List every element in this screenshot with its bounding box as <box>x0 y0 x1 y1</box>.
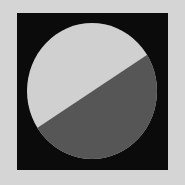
figure-canvas <box>0 0 185 185</box>
split-circle-figure <box>0 0 185 185</box>
